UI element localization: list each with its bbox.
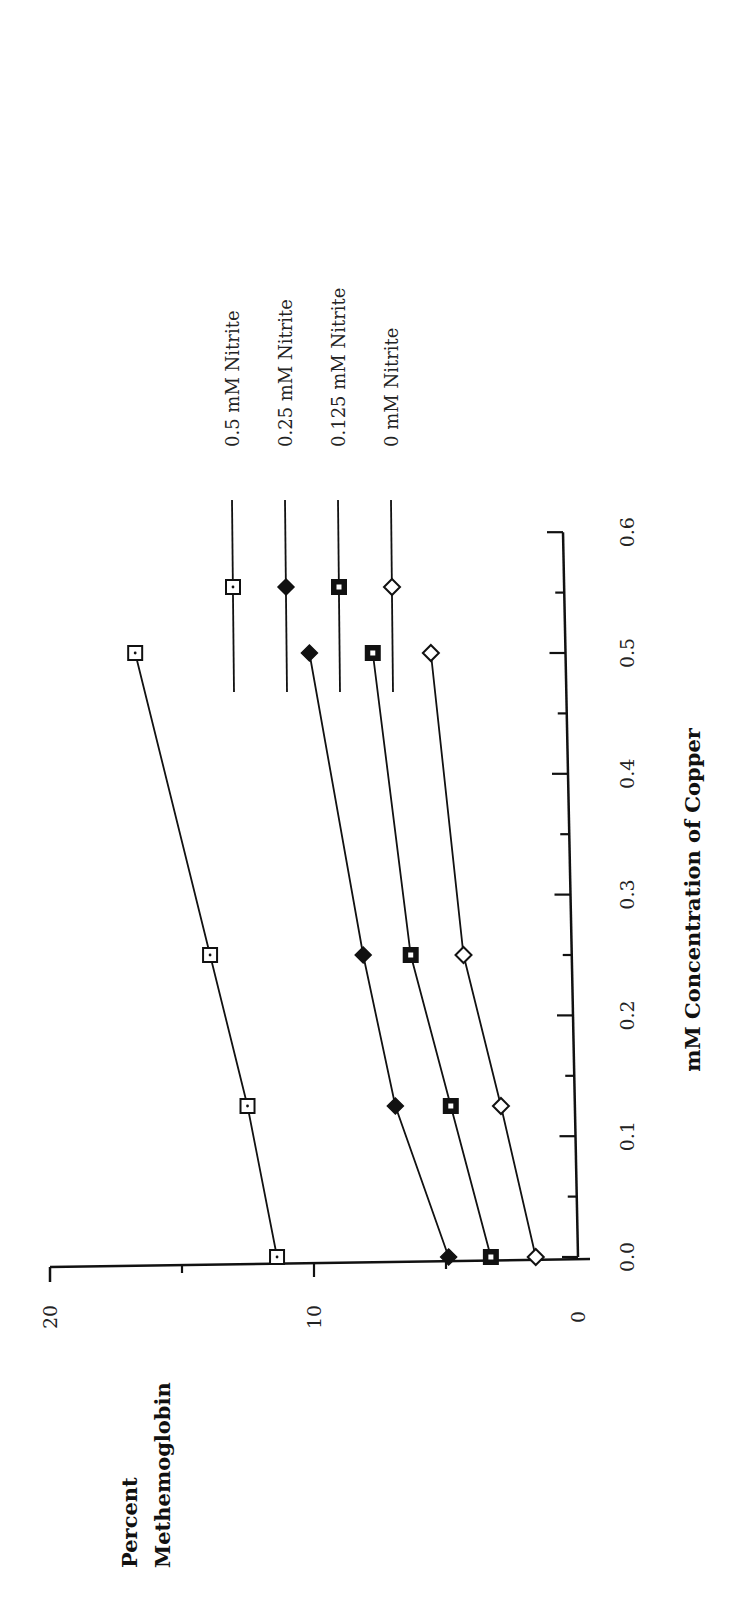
data-point-marker <box>241 1099 255 1113</box>
percent-axis-line <box>50 1259 590 1267</box>
legend-item: 0 mM Nitrite <box>381 328 402 692</box>
copper-tick-label: 0.6 <box>616 517 638 547</box>
copper-tick-label: 0.3 <box>616 879 638 909</box>
legend-line <box>232 500 234 692</box>
series-line <box>431 653 536 1257</box>
legend-label: 0.125 mM Nitrite <box>328 288 349 447</box>
percent-tick-label: 20 <box>39 1305 61 1329</box>
data-point-marker <box>493 1098 509 1114</box>
percent-axis: 01020 <box>39 1259 590 1329</box>
legend-marker <box>332 580 346 594</box>
percent-tick-label: 10 <box>303 1305 325 1329</box>
series-0-5-mm-nitrite <box>128 646 284 1264</box>
legend-item: 0.125 mM Nitrite <box>328 288 349 692</box>
copper-axis-title: mM Concentration of Copper <box>680 727 705 1072</box>
data-point-marker <box>484 1250 498 1264</box>
data-point-marker <box>404 948 418 962</box>
data-point-marker <box>387 1098 403 1114</box>
copper-tick-label: 0.1 <box>616 1121 638 1151</box>
methemoglobin-chart: 01020 0.00.10.20.30.40.50.6 mM Concentra… <box>0 0 731 1617</box>
series-0-mm-nitrite <box>423 645 544 1265</box>
legend-line <box>338 500 340 692</box>
copper-tick-label: 0.5 <box>616 638 638 668</box>
series-line <box>309 653 448 1257</box>
data-point-marker <box>444 1099 458 1113</box>
percent-axis-title: Percent Methemoglobin <box>117 1382 175 1568</box>
legend-label: 0.25 mM Nitrite <box>275 299 296 447</box>
data-point-marker <box>355 947 371 963</box>
legend-item: 0.5 mM Nitrite <box>222 310 243 692</box>
legend-marker <box>278 579 294 595</box>
data-point-marker <box>456 947 472 963</box>
copper-tick-label: 0.4 <box>616 759 638 789</box>
series-layer <box>128 645 544 1265</box>
data-point-marker <box>301 645 317 661</box>
data-point-marker <box>128 646 142 660</box>
data-point-marker <box>441 1249 457 1265</box>
legend-marker <box>384 579 400 595</box>
data-point-marker <box>366 646 380 660</box>
data-point-marker <box>203 948 217 962</box>
data-point-marker <box>423 645 439 661</box>
legend-marker <box>226 580 240 594</box>
legend: 0.5 mM Nitrite0.25 mM Nitrite0.125 mM Ni… <box>222 288 402 692</box>
legend-item: 0.25 mM Nitrite <box>275 299 296 692</box>
legend-label: 0 mM Nitrite <box>381 328 402 447</box>
percent-axis-title-line-2: Methemoglobin <box>150 1382 175 1568</box>
data-point-marker <box>528 1249 544 1265</box>
series-0-125-mm-nitrite <box>366 646 498 1264</box>
percent-axis-title-line-1: Percent <box>117 1477 142 1568</box>
copper-tick-label: 0.0 <box>616 1242 638 1272</box>
copper-axis: 0.00.10.20.30.40.50.6 <box>547 517 638 1272</box>
series-line <box>373 653 491 1257</box>
percent-tick-label: 0 <box>567 1311 589 1323</box>
legend-label: 0.5 mM Nitrite <box>222 310 243 447</box>
series-0-25-mm-nitrite <box>301 645 456 1265</box>
copper-tick-label: 0.2 <box>616 1000 638 1030</box>
data-point-marker <box>270 1250 284 1264</box>
